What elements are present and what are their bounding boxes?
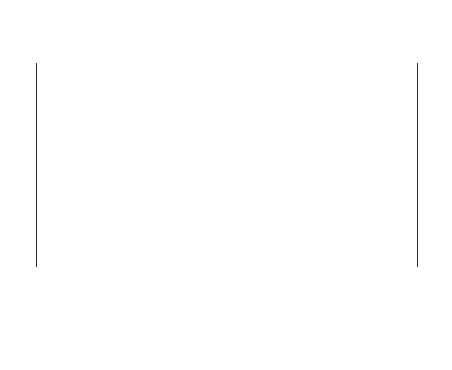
energy-chart (0, 0, 452, 370)
left-axis-line (36, 63, 37, 267)
right-axis-line (417, 63, 418, 267)
plot-area (36, 63, 418, 267)
